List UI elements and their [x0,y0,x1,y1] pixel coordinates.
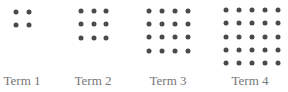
dot [79,22,84,27]
dot [237,21,242,26]
dot [104,36,109,41]
dot [79,9,84,14]
dot [14,10,19,15]
dot [224,48,229,53]
dot [276,61,281,66]
dot [173,35,178,40]
dot [276,21,281,26]
dot [173,22,178,27]
term-1-label: Term 1 [0,73,52,89]
dot [104,22,109,27]
dot [276,48,281,53]
dot [27,10,32,15]
dot [160,9,165,14]
dot [237,35,242,40]
dot [276,8,281,13]
dot [237,48,242,53]
dot [237,8,242,13]
dot [276,35,281,40]
dot [186,49,191,54]
dot [263,61,268,66]
dot [224,35,229,40]
dot [27,23,32,28]
dot [237,61,242,66]
dot [186,9,191,14]
dot [250,35,255,40]
dot [250,21,255,26]
dot [224,8,229,13]
dot [263,35,268,40]
dot [147,35,152,40]
dot [263,21,268,26]
dot [224,61,229,66]
dot [147,9,152,14]
dot [250,48,255,53]
dot [160,22,165,27]
term-4-label: Term 4 [220,73,280,89]
dot [104,9,109,14]
dot [186,35,191,40]
dot [79,36,84,41]
term-3-label: Term 3 [138,73,198,89]
dot [92,9,97,14]
dot [250,8,255,13]
dot [92,22,97,27]
dot [186,22,191,27]
dot [263,8,268,13]
term-2-label: Term 2 [63,73,123,89]
dot [224,21,229,26]
dot [160,49,165,54]
dot [92,36,97,41]
dot [147,22,152,27]
dot [263,48,268,53]
dot [173,9,178,14]
dot [14,23,19,28]
dot [250,61,255,66]
dot [160,35,165,40]
dot [173,49,178,54]
dot [147,49,152,54]
